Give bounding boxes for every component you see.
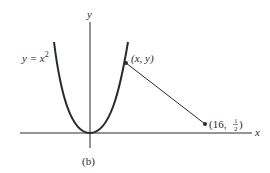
curve-label-exponent: 2 bbox=[45, 50, 49, 59]
fixed-point-label: (16, bbox=[209, 118, 227, 131]
fixed-point-label-prefix: (16, bbox=[209, 118, 227, 131]
fixed-point-fraction-den: 2 bbox=[234, 125, 238, 133]
parabola-diagram: y x y = x2 (x, y) (16, 1 2 ) (b) bbox=[0, 0, 270, 173]
curve-label: y = x2 bbox=[21, 50, 49, 64]
parabola-curve bbox=[54, 42, 128, 133]
fixed-point-label-suffix: ) bbox=[239, 118, 243, 131]
distance-segment bbox=[126, 63, 205, 124]
fixed-point-fraction-num: 1 bbox=[234, 117, 238, 125]
moving-point-dot bbox=[124, 61, 128, 65]
curve-label-lhs: y = x bbox=[21, 52, 45, 64]
y-axis-label: y bbox=[86, 8, 92, 20]
figure-caption: (b) bbox=[82, 155, 95, 168]
x-axis-label: x bbox=[254, 126, 260, 138]
fixed-point-dot bbox=[203, 122, 207, 126]
moving-point-label: (x, y) bbox=[131, 52, 154, 65]
